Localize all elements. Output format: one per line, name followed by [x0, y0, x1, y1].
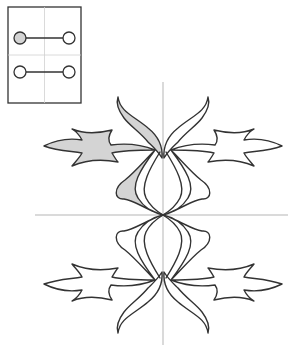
quadrant-lower-right: [163, 215, 282, 333]
quadrant-lower-left: [44, 215, 163, 333]
legend-node-filled: [14, 32, 26, 44]
quadrant-upper-left: [44, 97, 163, 215]
legend-node-empty: [63, 66, 75, 78]
quadrant-upper-right: [163, 97, 282, 215]
legend-node-empty: [63, 32, 75, 44]
ornament-diagram: [0, 0, 302, 353]
legend: [8, 7, 81, 103]
legend-node-empty: [14, 66, 26, 78]
